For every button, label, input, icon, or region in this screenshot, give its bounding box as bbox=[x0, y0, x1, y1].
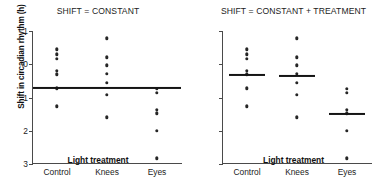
x-axis-tick-label-eyes: Eyes bbox=[148, 167, 167, 177]
data-point bbox=[245, 53, 248, 56]
data-point bbox=[105, 81, 108, 84]
data-point bbox=[245, 57, 248, 60]
data-point bbox=[345, 91, 348, 94]
y-axis-tick-label: 1 bbox=[23, 93, 28, 101]
circadian-rhythm-figure: Shift in circadian rhythm (h) SHIFT = CO… bbox=[0, 0, 391, 196]
data-point bbox=[105, 93, 108, 96]
y-axis-tick-label: 2 bbox=[23, 127, 28, 135]
data-point bbox=[295, 93, 298, 96]
y-axis-tick bbox=[29, 131, 33, 132]
fitted-mean-line bbox=[33, 86, 181, 88]
x-axis-tick-label-control: Control bbox=[234, 167, 261, 177]
data-point bbox=[105, 37, 108, 40]
data-point bbox=[105, 64, 108, 67]
y-axis-tick-label: 0 bbox=[23, 60, 28, 68]
data-point bbox=[55, 73, 58, 76]
x-axis-tick-label-knees: Knees bbox=[285, 167, 309, 177]
y-axis-tick-label: 1 bbox=[23, 27, 28, 35]
y-axis-tick bbox=[219, 64, 223, 65]
fitted-mean-line bbox=[329, 113, 365, 115]
x-axis-title-right: Light treatment bbox=[196, 155, 391, 165]
y-axis-tick bbox=[29, 64, 33, 65]
data-point bbox=[295, 116, 298, 119]
fitted-mean-line bbox=[229, 74, 265, 76]
panel-shift-constant-treatment: SHIFT = CONSTANT + TREATMENT ControlKnee… bbox=[196, 0, 391, 196]
x-axis-tick-label-eyes: Eyes bbox=[338, 167, 357, 177]
data-point bbox=[155, 129, 158, 132]
data-point bbox=[55, 105, 58, 108]
data-point bbox=[345, 129, 348, 132]
data-point bbox=[155, 91, 158, 94]
data-point bbox=[245, 105, 248, 108]
data-point bbox=[55, 48, 58, 51]
data-point bbox=[295, 81, 298, 84]
data-point bbox=[105, 56, 108, 59]
data-point bbox=[105, 72, 108, 75]
data-point bbox=[155, 111, 158, 114]
y-axis-tick bbox=[219, 31, 223, 32]
y-axis-tick bbox=[219, 98, 223, 99]
data-point bbox=[245, 86, 248, 89]
x-axis-tick-label-control: Control bbox=[44, 167, 71, 177]
x-axis-title-left: Light treatment bbox=[0, 155, 196, 165]
data-point bbox=[55, 53, 58, 56]
data-point bbox=[105, 116, 108, 119]
panel-title-constant-treatment: SHIFT = CONSTANT + TREATMENT bbox=[196, 6, 391, 16]
y-axis-tick bbox=[219, 131, 223, 132]
data-point bbox=[55, 57, 58, 60]
data-point bbox=[295, 56, 298, 59]
plot-area-constant-treatment: ControlKneesEyes bbox=[222, 31, 372, 164]
data-point bbox=[345, 87, 348, 90]
plot-area-constant: 10123 ControlKneesEyes bbox=[32, 31, 182, 164]
x-axis-tick-label-knees: Knees bbox=[95, 167, 119, 177]
panel-title-constant: SHIFT = CONSTANT bbox=[0, 6, 196, 16]
y-axis-tick bbox=[29, 98, 33, 99]
y-axis-tick bbox=[29, 31, 33, 32]
data-point bbox=[295, 64, 298, 67]
fitted-mean-line bbox=[279, 75, 315, 77]
panel-shift-constant: SHIFT = CONSTANT 10123 ControlKneesEyes … bbox=[0, 0, 196, 196]
data-point bbox=[245, 48, 248, 51]
data-point bbox=[295, 37, 298, 40]
